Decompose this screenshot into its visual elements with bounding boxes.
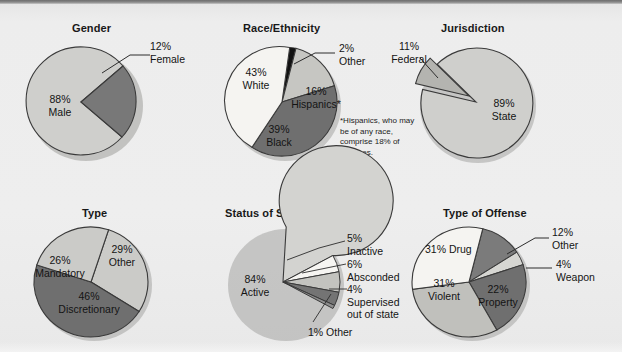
chart-title-type-of-offense: Type of Offense bbox=[443, 207, 527, 219]
pie-label-active: 84% Active bbox=[229, 273, 281, 298]
pie-label-other-type: 29% Other bbox=[95, 243, 149, 268]
leader-line-other-status bbox=[305, 292, 337, 328]
pie-label-hispanics-pct: 16% bbox=[283, 85, 349, 98]
pie-label-state-pct: 89% bbox=[478, 97, 530, 110]
pie-label-active-name: Active bbox=[229, 286, 281, 299]
pie-label-absconded-name: Absconded bbox=[347, 271, 400, 284]
pie-label-property-pct: 22% bbox=[470, 283, 526, 296]
pie-label-mandatory-name: Mandatory bbox=[24, 267, 96, 280]
chart-title-jurisdiction: Jurisdiction bbox=[441, 22, 505, 34]
pie-label-state-name: State bbox=[478, 110, 530, 123]
pie-label-other-race-pct: 2% bbox=[339, 42, 365, 55]
pie-label-property: 22% Property bbox=[470, 283, 526, 308]
pie-label-other-type-pct: 29% bbox=[95, 243, 149, 256]
leader-line-other-race bbox=[293, 48, 337, 68]
pie-label-weapon-pct: 4% bbox=[556, 258, 595, 271]
pie-label-male: 88% Male bbox=[33, 93, 87, 118]
pie-type-svg bbox=[28, 222, 156, 346]
pie-label-federal-pct: 11% bbox=[383, 40, 435, 53]
pie-label-outofstate-name-1: Supervised bbox=[347, 296, 400, 309]
pie-label-active-pct: 84% bbox=[229, 273, 281, 286]
pie-label-outofstate-pct: 4% bbox=[347, 283, 400, 296]
leader-line-weapon bbox=[524, 262, 554, 274]
pie-label-male-name: Male bbox=[33, 106, 87, 119]
pie-label-female: 12% Female bbox=[150, 40, 185, 65]
pie-label-white: 43% White bbox=[232, 66, 280, 91]
bottom-edge-fade bbox=[0, 342, 622, 352]
pie-label-other-offense: 12% Other bbox=[552, 226, 578, 251]
leader-line-inactive bbox=[285, 238, 347, 264]
pie-label-black-name: Black bbox=[255, 136, 303, 149]
pie-label-violent-pct: 31% bbox=[418, 277, 470, 290]
pie-label-weapon: 4% Weapon bbox=[556, 258, 595, 283]
pie-label-other-race-name: Other bbox=[339, 55, 365, 68]
pie-label-black: 39% Black bbox=[255, 123, 303, 148]
pie-label-other-race: 2% Other bbox=[339, 42, 365, 67]
leader-line-other-offense bbox=[505, 232, 551, 258]
pie-label-white-pct: 43% bbox=[232, 66, 280, 79]
pie-label-hispanics-name: Hispanics* bbox=[283, 98, 349, 111]
pie-label-federal-name: Federal bbox=[383, 53, 435, 66]
pie-label-outofstate-name-2: out of state bbox=[347, 308, 400, 321]
pie-label-inactive-pct: 5% bbox=[347, 232, 383, 245]
leader-line-female bbox=[100, 47, 152, 77]
pie-label-weapon-name: Weapon bbox=[556, 271, 595, 284]
pie-label-mandatory: 26% Mandatory bbox=[24, 254, 96, 279]
pie-label-supervised-out-of-state: 4% Supervised out of state bbox=[347, 283, 400, 321]
pie-label-female-name: Female bbox=[150, 53, 185, 66]
pie-label-violent: 31% Violent bbox=[418, 277, 470, 302]
pie-label-property-name: Property bbox=[470, 296, 526, 309]
pie-label-discretionary-pct: 46% bbox=[43, 290, 135, 303]
pie-label-drug: 31% Drug bbox=[425, 243, 472, 256]
leader-line-absconded bbox=[300, 262, 348, 278]
pie-label-black-pct: 39% bbox=[255, 123, 303, 136]
pie-label-discretionary: 46% Discretionary bbox=[43, 290, 135, 315]
pie-type bbox=[28, 222, 156, 346]
chart-title-race-ethnicity: Race/Ethnicity bbox=[243, 22, 320, 34]
pie-label-inactive: 5% Inactive bbox=[347, 232, 383, 257]
pie-label-other-type-name: Other bbox=[95, 256, 149, 269]
top-edge-band bbox=[0, 0, 622, 4]
pie-label-other-offense-name: Other bbox=[552, 239, 578, 252]
pie-label-female-pct: 12% bbox=[150, 40, 185, 53]
pie-label-other-status: 1% Other bbox=[308, 326, 352, 339]
pie-label-violent-name: Violent bbox=[418, 290, 470, 303]
pie-label-absconded-pct: 6% bbox=[347, 258, 400, 271]
pie-chart-figure: Gender 88% Male 12% Female Race/Ethnicit… bbox=[0, 0, 622, 352]
chart-title-type: Type bbox=[82, 207, 107, 219]
pie-label-mandatory-pct: 26% bbox=[24, 254, 96, 267]
pie-label-white-name: White bbox=[232, 79, 280, 92]
pie-label-federal: 11% Federal bbox=[383, 40, 435, 65]
pie-label-discretionary-name: Discretionary bbox=[43, 303, 135, 316]
pie-label-state: 89% State bbox=[478, 97, 530, 122]
pie-label-absconded: 6% Absconded bbox=[347, 258, 400, 283]
chart-title-gender: Gender bbox=[72, 22, 111, 34]
pie-label-inactive-name: Inactive bbox=[347, 245, 383, 258]
pie-label-hispanics: 16% Hispanics* bbox=[283, 85, 349, 110]
pie-label-male-pct: 88% bbox=[33, 93, 87, 106]
pie-label-other-offense-pct: 12% bbox=[552, 226, 578, 239]
